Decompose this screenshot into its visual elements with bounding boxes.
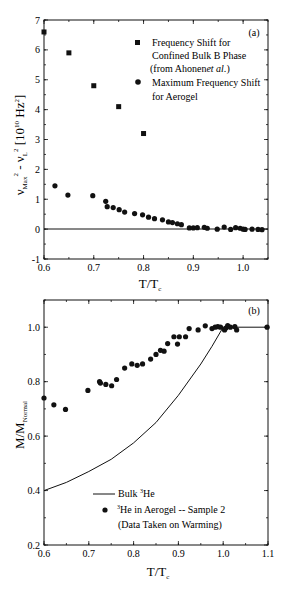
circle-point <box>114 377 119 382</box>
y-tick-label: 5 <box>35 74 40 85</box>
circle-point <box>205 226 210 231</box>
circle-point <box>51 402 56 407</box>
circle-point <box>228 227 233 232</box>
x-tick-label: 0.9 <box>172 548 185 559</box>
circle-point <box>41 395 46 400</box>
circle-point <box>122 209 127 214</box>
circle-point <box>234 327 239 332</box>
circle-point <box>146 215 151 220</box>
legend-square-line1: Frequency Shift for <box>152 37 231 48</box>
panel-a-x-tick-labels: 0.60.70.80.91.0 <box>38 262 250 273</box>
y-tick-label: 0.8 <box>28 376 41 387</box>
panel-a-label: (a) <box>248 27 259 39</box>
circle-point <box>161 349 166 354</box>
circle-point <box>109 383 114 388</box>
y-tick-label: 6 <box>35 44 40 55</box>
circle-point <box>103 199 108 204</box>
circle-point <box>148 356 153 361</box>
x-tick-label: 0.9 <box>187 262 200 273</box>
circle-point <box>160 217 165 222</box>
panel-a-y-tick-labels: -101234567 <box>32 15 40 265</box>
x-tick-label: 1.1 <box>262 548 275 559</box>
legend-circle-line1: Maximum Frequency Shift <box>152 77 261 88</box>
circle-point <box>259 227 264 232</box>
circle-point <box>111 205 116 210</box>
circle-point <box>117 207 122 212</box>
circle-point <box>132 211 137 216</box>
x-tick-label: 0.8 <box>127 548 140 559</box>
panel-a-circle-series <box>52 183 264 232</box>
x-tick-label: 0.7 <box>88 262 101 273</box>
circle-point <box>105 204 110 209</box>
panel-a: -101234567 0.60.70.80.91.0 (a) Frequency… <box>12 15 268 294</box>
panel-b: 0.20.40.60.81.0 0.60.70.80.91.01.1 (b) B… <box>12 300 274 581</box>
circle-point <box>153 352 158 357</box>
square-point <box>42 29 47 34</box>
y-tick-label: 7 <box>35 15 40 26</box>
x-tick-label: 0.8 <box>137 262 150 273</box>
y-tick-label: 0 <box>35 224 40 235</box>
panel-a-legend: Frequency Shift for Confined Bulk B Phas… <box>135 37 261 102</box>
panel-b-x-tick-labels: 0.60.70.80.91.01.1 <box>38 548 275 559</box>
circle-point <box>179 222 184 227</box>
y-tick-label: 0.6 <box>28 431 41 442</box>
panel-a-square-series <box>42 29 147 136</box>
x-tick-label: 0.6 <box>38 548 51 559</box>
circle-point <box>152 216 157 221</box>
circle-point <box>233 225 238 230</box>
square-point <box>66 50 71 55</box>
panel-b-y-tick-labels: 0.20.40.60.81.0 <box>28 322 41 551</box>
circle-point <box>177 334 182 339</box>
legend-line-label: Bulk 3He <box>118 488 155 499</box>
panel-b-x-axis-title: T/Tc <box>147 564 170 581</box>
panel-b-circle-series <box>41 323 269 412</box>
legend-square-line3: (from Ahonenet al.) <box>150 63 230 75</box>
circle-point <box>243 227 248 232</box>
circle-point <box>122 365 127 370</box>
y-tick-label: 2 <box>35 164 40 175</box>
circle-point <box>63 407 68 412</box>
circle-point <box>140 361 145 366</box>
circle-point <box>222 224 227 229</box>
x-tick-label: 0.6 <box>38 262 51 273</box>
circle-point <box>215 227 220 232</box>
x-tick-label: 1.0 <box>237 262 250 273</box>
circle-point <box>187 326 192 331</box>
circle-point <box>65 192 70 197</box>
y-tick-label: 4 <box>35 104 40 115</box>
panel-a-x-axis-title: T/Tc <box>139 276 162 293</box>
legend-circle-marker <box>135 79 141 85</box>
y-tick-label: 0.4 <box>28 485 41 496</box>
panel-b-label: (b) <box>248 305 260 317</box>
circle-point <box>98 380 103 385</box>
circle-point <box>140 212 145 217</box>
circle-point <box>203 323 208 328</box>
circle-point <box>85 388 90 393</box>
circle-point <box>249 227 254 232</box>
legend-dot-marker <box>102 507 107 512</box>
circle-point <box>129 361 134 366</box>
legend-dot-label-line1: 3He in Aerogel -- Sample 2 <box>117 504 225 515</box>
circle-point <box>52 183 57 188</box>
panel-b-legend: Bulk 3He 3He in Aerogel -- Sample 2 (Dat… <box>93 488 225 531</box>
circle-point <box>196 327 201 332</box>
x-tick-label: 0.7 <box>83 548 96 559</box>
panel-a-y-axis-title: νMax2 - νL2 [1010 Hz2] <box>12 95 29 196</box>
legend-square-marker <box>135 40 140 45</box>
square-point <box>141 131 146 136</box>
square-point <box>91 83 96 88</box>
legend-dot-label-line2: (Data Taken on Warming) <box>118 519 222 531</box>
circle-point <box>195 225 200 230</box>
circle-point <box>171 334 176 339</box>
bulk-he3-curve <box>44 327 268 490</box>
circle-point <box>175 342 180 347</box>
legend-square-line2: Confined Bulk B Phase <box>152 50 247 61</box>
figure: -101234567 0.60.70.80.91.0 (a) Frequency… <box>0 0 283 594</box>
y-tick-label: 1.0 <box>28 322 41 333</box>
circle-point <box>90 193 95 198</box>
square-point <box>116 104 121 109</box>
circle-point <box>103 382 108 387</box>
circle-point <box>228 325 233 330</box>
circle-point <box>135 363 140 368</box>
panel-b-y-axis-title: M/MNormal <box>12 401 29 449</box>
